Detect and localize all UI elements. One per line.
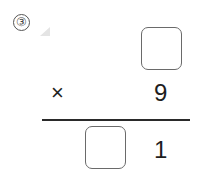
multiplier-digit: 9 xyxy=(154,81,167,105)
problem-number: ③ xyxy=(13,14,30,31)
sum-line xyxy=(42,119,190,121)
multiply-operator: × xyxy=(51,82,64,104)
corner-mark-decoration xyxy=(40,27,50,36)
product-tens-answer-box[interactable] xyxy=(85,126,126,169)
product-ones-digit: 1 xyxy=(154,138,167,162)
multiplicand-answer-box[interactable] xyxy=(141,27,182,70)
